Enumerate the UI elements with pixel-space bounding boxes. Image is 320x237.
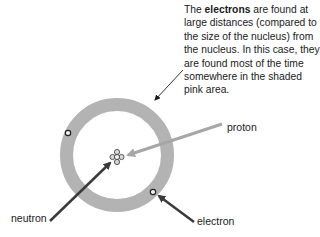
- neutron-arrow: [50, 163, 110, 221]
- proton-arrow: [128, 124, 222, 155]
- caption-suffix: are found at large distances (compared t…: [184, 4, 320, 95]
- electrons-caption: The electrons are found at large distanc…: [184, 3, 320, 97]
- neutron-label: neutron: [11, 212, 47, 224]
- electron-arrow: [159, 196, 194, 222]
- nucleus: [110, 149, 124, 164]
- proton-label: proton: [227, 121, 257, 133]
- electron-dot: [65, 130, 70, 135]
- caption-prefix: The: [184, 4, 205, 15]
- electron-label: electron: [197, 215, 234, 227]
- caption-pointer-arrow: [155, 70, 183, 100]
- caption-bold-term: electrons: [205, 4, 251, 15]
- electron-dot: [150, 189, 155, 194]
